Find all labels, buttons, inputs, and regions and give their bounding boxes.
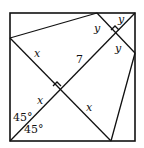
label-seven: 7: [76, 53, 83, 66]
label-angle-lower: 45°: [24, 123, 44, 136]
label-y-right: y: [114, 42, 122, 55]
label-x-upper-left: x: [34, 47, 41, 60]
label-y-left: y: [93, 22, 101, 35]
label-y-top: y: [117, 13, 125, 26]
quad-right-edge: [111, 53, 135, 141]
quad-top-edge: [10, 13, 97, 38]
geometry-diagram: x 7 x x y y y 45° 45°: [0, 0, 144, 148]
label-x-lower-right: x: [86, 101, 93, 114]
right-angle-marker-upper: [111, 26, 119, 30]
label-x-lower-left: x: [37, 94, 44, 107]
